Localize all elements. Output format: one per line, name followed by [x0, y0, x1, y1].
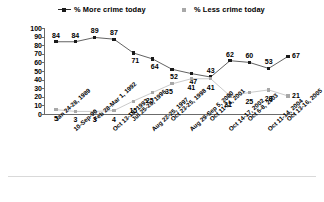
- y-tick-mark: [41, 88, 44, 89]
- data-label: 67: [292, 52, 300, 59]
- y-tick-mark: [41, 45, 44, 46]
- legend-label-more-crime: % More crime today: [74, 5, 146, 14]
- data-point: [132, 51, 135, 54]
- data-point: [151, 91, 154, 94]
- data-point: [267, 88, 270, 91]
- data-point: [190, 77, 193, 80]
- y-tick-mark: [41, 105, 44, 106]
- data-point: [74, 40, 77, 43]
- data-point: [286, 94, 289, 97]
- data-point: [74, 110, 77, 113]
- data-label: 84: [71, 32, 79, 39]
- square-marker-dark-icon: [58, 6, 71, 13]
- y-tick-mark: [41, 54, 44, 55]
- legend-label-less-crime: % Less crime today: [194, 5, 265, 14]
- data-point: [112, 38, 115, 41]
- data-label: 89: [91, 27, 99, 34]
- data-label: 84: [52, 32, 60, 39]
- x-axis-tick-labels: Jan 24-28, 198910-Sep-90Feb 28-Mar 1, 19…: [0, 114, 324, 202]
- data-point: [54, 108, 57, 111]
- y-tick-mark: [41, 37, 44, 38]
- data-point: [54, 40, 57, 43]
- footer-divider: [8, 176, 316, 177]
- data-label: 64: [151, 63, 159, 70]
- crime-perception-line-chart: % More crime today % Less crime today 10…: [0, 0, 324, 202]
- data-point: [228, 59, 231, 62]
- data-point: [112, 109, 115, 112]
- data-label: 71: [131, 57, 139, 64]
- data-label: 41: [207, 84, 215, 91]
- data-point: [132, 100, 135, 103]
- data-point: [248, 61, 251, 64]
- data-label: 43: [207, 67, 215, 74]
- data-point: [93, 36, 96, 39]
- y-tick-mark: [41, 28, 44, 29]
- data-point: [170, 82, 173, 85]
- data-point: [170, 68, 173, 71]
- data-point: [209, 77, 212, 80]
- data-point: [286, 55, 289, 58]
- data-label: 62: [226, 51, 234, 58]
- chart-legend: % More crime today % Less crime today: [0, 2, 324, 18]
- y-tick-mark: [41, 71, 44, 72]
- data-point: [190, 72, 193, 75]
- data-point: [248, 91, 251, 94]
- data-point: [151, 57, 154, 60]
- data-point: [267, 67, 270, 70]
- legend-item-more-crime: % More crime today: [58, 5, 146, 14]
- data-label: 41: [187, 84, 195, 91]
- data-label: 87: [110, 29, 118, 36]
- y-tick-mark: [41, 80, 44, 81]
- square-marker-light-icon: [178, 6, 191, 13]
- legend-item-less-crime: % Less crime today: [178, 5, 265, 14]
- data-label: 53: [265, 58, 273, 65]
- y-axis-tick-labels: 1009080706050403020100: [22, 22, 42, 120]
- y-tick-mark: [41, 97, 44, 98]
- data-label: 52: [170, 73, 178, 80]
- data-label: 60: [245, 52, 253, 59]
- y-tick-mark: [41, 62, 44, 63]
